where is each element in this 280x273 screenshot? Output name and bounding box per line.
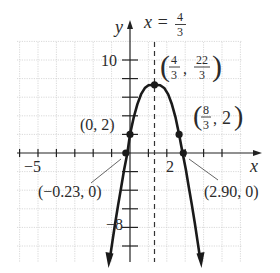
- curve-arrow-left-icon: [106, 252, 114, 268]
- svg-text:4: 4: [171, 53, 177, 67]
- tick-label-2: 2: [166, 158, 174, 175]
- svg-text:3: 3: [177, 25, 183, 39]
- curve-arrow-right-icon: [197, 252, 205, 268]
- svg-text:,: ,: [183, 60, 187, 77]
- svg-text:,: ,: [213, 110, 217, 127]
- vertex-label: ( 4 3 , 22 3 ): [160, 49, 222, 83]
- tick-label-10: 10: [101, 52, 117, 69]
- svg-text:8: 8: [203, 103, 209, 117]
- x-intercept-left-label: (−0.23, 0): [38, 183, 102, 201]
- svg-text:3: 3: [199, 68, 205, 82]
- y-axis-label: y: [113, 17, 123, 37]
- tick-label-neg8: −8: [106, 216, 123, 233]
- y-intercept-point: [126, 131, 133, 138]
- svg-text:): ): [212, 49, 222, 83]
- x-intercept-left-point: [122, 149, 129, 156]
- svg-text:): ): [234, 100, 243, 131]
- x-intercept-right-label: (2.90, 0): [204, 183, 259, 201]
- svg-text:3: 3: [171, 68, 177, 82]
- symmetric-point: [176, 131, 183, 138]
- x-intercept-right-point: [180, 149, 187, 156]
- svg-text:2: 2: [222, 108, 231, 128]
- svg-text:(: (: [160, 49, 170, 83]
- svg-text:3: 3: [203, 118, 209, 132]
- vertex-point: [151, 81, 158, 88]
- x-axis-label: x: [249, 156, 258, 176]
- leader-left: [91, 159, 121, 183]
- svg-text:(: (: [193, 100, 202, 131]
- y-intercept-label: (0, 2): [80, 116, 115, 134]
- y-axis: [122, 27, 138, 262]
- tick-label-neg5: −5: [24, 158, 41, 175]
- symmetric-point-label: ( 8 3 , 2 ): [193, 100, 243, 132]
- y-axis-arrow-icon: [127, 20, 133, 29]
- svg-text:4: 4: [177, 10, 183, 24]
- svg-text:22: 22: [196, 53, 208, 67]
- symmetry-label: x = 4 3: [143, 10, 186, 39]
- svg-text:x =: x =: [143, 12, 169, 32]
- parabola-graph: y x 10 −8 −5 2 x = 4 3 ( 4 3 , 22 3 ) ( …: [0, 0, 280, 273]
- x-axis: [17, 149, 255, 157]
